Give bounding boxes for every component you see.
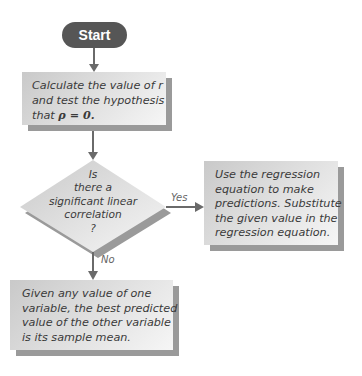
yes-line: the given value in the <box>215 212 338 227</box>
yes-line: equation to make <box>215 183 338 198</box>
yes-label: Yes <box>171 192 187 203</box>
decision-line: correlation <box>30 208 156 221</box>
yes-line: Use the regression <box>215 168 338 183</box>
yes-line: regression equation. <box>215 226 338 241</box>
decision-line: there a <box>30 181 156 194</box>
no-outcome-box: Given any value of one variable, the bes… <box>10 280 173 350</box>
no-line: value of the other variable <box>22 316 173 331</box>
step1-line: Calculate the value of r <box>32 79 166 94</box>
rho-equation: ρ = 0. <box>58 108 94 122</box>
arrow-head-icon <box>195 202 204 212</box>
start-terminal: Start <box>62 22 127 48</box>
decision-line: ? <box>30 222 156 235</box>
step1-line: and test the hypothesis <box>32 94 166 109</box>
decision-line: significant linear <box>30 195 156 208</box>
arrow-head-icon <box>88 152 98 160</box>
no-line: is its sample mean. <box>22 331 173 346</box>
decision-line: Is <box>30 168 156 181</box>
step1-line: that ρ = 0. <box>32 108 166 124</box>
step-calculate-r: Calculate the value of r and test the hy… <box>22 72 166 125</box>
yes-line: predictions. Substitute <box>215 197 338 212</box>
decision-text: Is there a significant linear correlatio… <box>30 168 156 235</box>
yes-outcome-box: Use the regression equation to make pred… <box>204 161 338 245</box>
arrow-head-icon <box>89 64 99 72</box>
arrow-head-icon <box>88 271 98 280</box>
no-line: Given any value of one <box>22 287 173 302</box>
no-label: No <box>101 254 115 265</box>
no-line: variable, the best predicted <box>22 302 173 317</box>
